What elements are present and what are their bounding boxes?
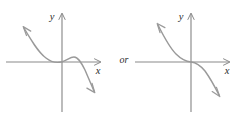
figure-container: y x or y x <box>0 0 247 119</box>
left-graph-svg: y x <box>0 0 118 119</box>
right-graph-panel: y x <box>129 0 247 119</box>
right-curve-path <box>158 25 219 95</box>
left-y-axis-label: y <box>49 11 55 22</box>
right-x-axis-label: x <box>224 65 230 76</box>
right-graph-svg: y x <box>129 0 247 119</box>
right-y-axis-label: y <box>178 11 184 22</box>
left-curve-path <box>24 28 94 91</box>
left-graph-panel: y x <box>0 0 118 119</box>
left-x-axis-label: x <box>95 65 101 76</box>
